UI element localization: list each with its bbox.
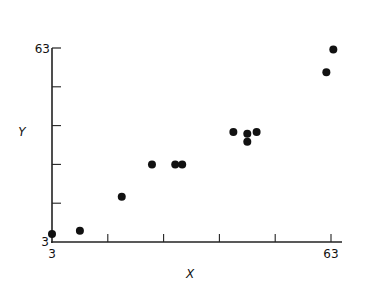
x-axis [51,234,342,242]
y-axis [52,48,61,243]
data-point [322,68,330,76]
data-point [229,128,237,136]
data-point [329,46,337,54]
y-axis-title: Y [18,125,27,139]
data-point [76,227,84,235]
data-point [118,193,126,201]
data-point [171,160,179,168]
x-min-label: 3 [48,247,56,261]
scatter-plot: 63 3 3 63 Y X [0,0,367,296]
x-axis-title: X [185,267,195,281]
data-point [48,230,56,238]
data-point [148,160,156,168]
data-point [253,128,261,136]
data-point [178,160,186,168]
data-points [48,46,337,238]
data-point [243,138,251,146]
x-max-label: 63 [323,247,338,261]
data-point [243,130,251,138]
y-max-label: 63 [35,42,50,56]
